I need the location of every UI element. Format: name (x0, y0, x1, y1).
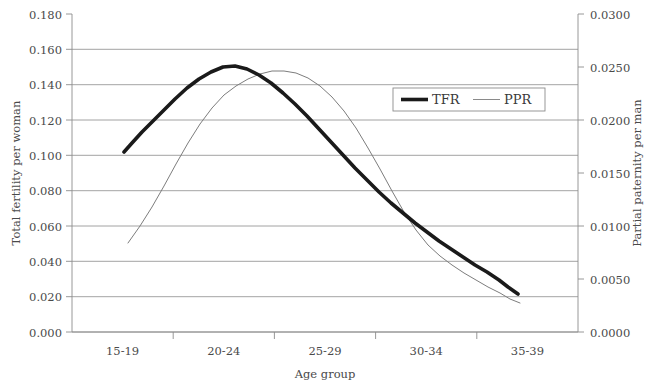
left-tick-label: 0.040 (29, 255, 62, 269)
y-axis-title: Total fertility per woman (9, 100, 23, 245)
x-axis-tick-labels: 15-19 20-24 25-29 30-34 35-39 (106, 344, 544, 358)
left-tick-label: 0.140 (29, 78, 62, 92)
right-tick-label: 0.0050 (590, 273, 630, 287)
left-axis-ticks (66, 14, 72, 332)
right-axis-tick-labels: 0.0300 0.0250 0.0200 0.0150 0.0100 0.005… (590, 8, 630, 340)
dual-axis-line-chart: 0.180 0.160 0.140 0.120 0.100 0.080 0.06… (0, 0, 652, 385)
right-tick-label: 0.0200 (590, 114, 630, 128)
left-tick-label: 0.180 (29, 8, 62, 22)
right-tick-label: 0.0100 (590, 220, 630, 234)
chart-container: 0.180 0.160 0.140 0.120 0.100 0.080 0.06… (0, 0, 652, 385)
right-tick-label: 0.0000 (590, 326, 630, 340)
x-tick-label-30-34: 30-34 (410, 344, 443, 358)
left-tick-label: 0.000 (29, 326, 62, 340)
right-tick-label: 0.0300 (590, 8, 630, 22)
right-tick-label: 0.0250 (590, 61, 630, 75)
x-tick-label-25-29: 25-29 (308, 344, 341, 358)
left-tick-label: 0.100 (29, 149, 62, 163)
legend: TFR PPR (393, 88, 545, 111)
left-tick-label: 0.080 (29, 184, 62, 198)
x-tick-label-35-39: 35-39 (511, 344, 544, 358)
left-axis-tick-labels: 0.180 0.160 0.140 0.120 0.100 0.080 0.06… (29, 8, 62, 340)
x-axis-ticks (173, 332, 477, 339)
x-tick-label-15-19: 15-19 (106, 344, 139, 358)
left-tick-label: 0.120 (29, 114, 62, 128)
x-tick-label-20-24: 20-24 (207, 344, 240, 358)
x-axis-title: Age group (294, 367, 356, 381)
left-tick-label: 0.020 (29, 290, 62, 304)
right-axis-ticks (578, 14, 584, 332)
left-tick-label: 0.060 (29, 220, 62, 234)
legend-label-ppr: PPR (504, 92, 532, 107)
left-tick-label: 0.160 (29, 43, 62, 57)
y2-axis-title: Partial paternity per man (630, 99, 644, 247)
right-tick-label: 0.0150 (590, 167, 630, 181)
legend-label-tfr: TFR (432, 92, 461, 107)
